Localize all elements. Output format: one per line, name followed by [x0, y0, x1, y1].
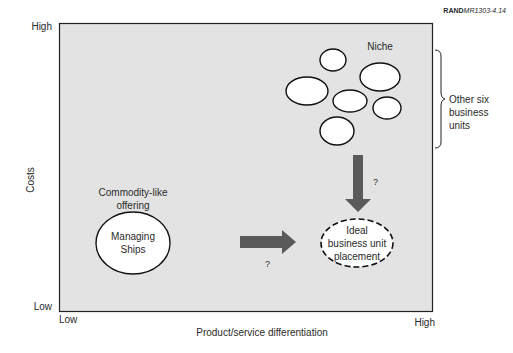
niche-label: Niche — [367, 41, 393, 52]
business-unit-ellipse — [333, 90, 367, 112]
positioning-diagram: RANDMR1303-4.14 High Low Costs Low High … — [0, 0, 513, 353]
bracket-label-line3: units — [449, 120, 470, 131]
commodity-label-line2: offering — [116, 200, 149, 211]
x-axis-title: Product/service differentiation — [196, 327, 328, 338]
question-down: ? — [373, 177, 378, 187]
y-axis-high-label: High — [31, 21, 52, 32]
x-axis-high-label: High — [414, 317, 435, 328]
commodity-label-line1: Commodity-like — [99, 187, 168, 198]
ideal-label-line3: placement — [334, 251, 380, 262]
business-unit-ellipse — [360, 63, 400, 91]
business-unit-ellipse — [286, 77, 328, 105]
x-axis-low-label: Low — [59, 314, 78, 325]
managing-ships-line2: Ships — [120, 244, 145, 255]
y-axis-low-label: Low — [34, 301, 53, 312]
y-axis-title: Costs — [25, 167, 36, 193]
business-unit-ellipse — [320, 49, 346, 71]
bracket-icon — [435, 50, 445, 148]
question-right: ? — [265, 259, 270, 269]
ideal-label-line2: business unit — [328, 238, 387, 249]
managing-ships-line1: Managing — [111, 231, 155, 242]
business-unit-ellipse — [373, 97, 401, 119]
bracket-label-line2: business — [449, 107, 488, 118]
business-unit-ellipse — [320, 117, 354, 145]
bracket-label-line1: Other six — [449, 94, 489, 105]
managing-ships-ellipse — [96, 212, 170, 274]
figure-id: RANDMR1303-4.14 — [443, 7, 506, 14]
ideal-label-line1: Ideal — [346, 225, 368, 236]
